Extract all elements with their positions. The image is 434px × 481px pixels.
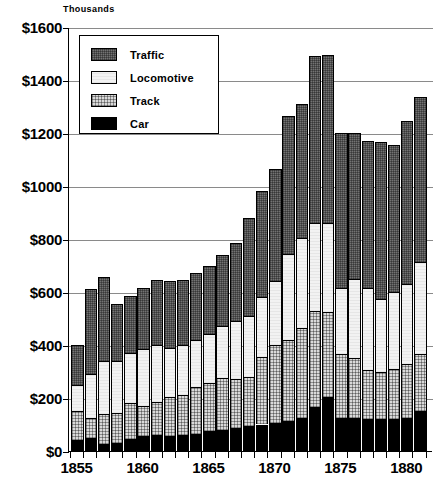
bar-segment-track[interactable] — [296, 328, 308, 418]
stacked-bar[interactable] — [309, 27, 321, 451]
bar-segment-car[interactable] — [375, 419, 387, 451]
bar-segment-car[interactable] — [111, 443, 123, 451]
bar-segment-locomotive[interactable] — [296, 238, 308, 328]
stacked-bar[interactable] — [322, 27, 334, 451]
bar-segment-car[interactable] — [216, 430, 228, 451]
bar-segment-traffic[interactable] — [388, 145, 400, 292]
bar-segment-locomotive[interactable] — [309, 223, 321, 310]
bar-segment-car[interactable] — [137, 436, 149, 451]
bar-segment-track[interactable] — [203, 383, 215, 431]
stacked-bar[interactable] — [335, 27, 347, 451]
bar-segment-car[interactable] — [348, 418, 360, 451]
bar-segment-car[interactable] — [85, 438, 97, 451]
bar-segment-traffic[interactable] — [85, 289, 97, 374]
stacked-bar[interactable] — [414, 27, 426, 451]
bar-segment-car[interactable] — [164, 436, 176, 451]
bar-segment-locomotive[interactable] — [230, 321, 242, 379]
stacked-bar[interactable] — [388, 27, 400, 451]
bar-segment-locomotive[interactable] — [269, 281, 281, 345]
bar-segment-traffic[interactable] — [164, 281, 176, 347]
bar-segment-traffic[interactable] — [216, 255, 228, 327]
bar-segment-car[interactable] — [203, 431, 215, 451]
stacked-bar[interactable] — [296, 27, 308, 451]
bar-segment-locomotive[interactable] — [85, 374, 97, 418]
bar-segment-track[interactable] — [335, 354, 347, 418]
bar-segment-track[interactable] — [256, 357, 268, 425]
bar-segment-track[interactable] — [98, 414, 110, 444]
bar-segment-locomotive[interactable] — [203, 334, 215, 383]
bar-segment-traffic[interactable] — [203, 266, 215, 335]
bar-segment-traffic[interactable] — [124, 296, 136, 353]
bar-segment-traffic[interactable] — [348, 133, 360, 279]
bar-segment-locomotive[interactable] — [111, 361, 123, 413]
bar-segment-car[interactable] — [335, 418, 347, 451]
bar-segment-traffic[interactable] — [98, 277, 110, 360]
bar-segment-traffic[interactable] — [401, 121, 413, 284]
stacked-bar[interactable] — [348, 27, 360, 451]
bar-segment-locomotive[interactable] — [348, 279, 360, 359]
bar-segment-car[interactable] — [269, 423, 281, 451]
bar-segment-track[interactable] — [348, 358, 360, 418]
stacked-bar[interactable] — [375, 27, 387, 451]
bar-segment-locomotive[interactable] — [388, 292, 400, 369]
bar-segment-traffic[interactable] — [375, 142, 387, 298]
bar-segment-traffic[interactable] — [177, 280, 189, 345]
bar-segment-locomotive[interactable] — [243, 316, 255, 377]
bar-segment-track[interactable] — [230, 379, 242, 428]
bar-segment-locomotive[interactable] — [151, 345, 163, 402]
bar-segment-car[interactable] — [230, 428, 242, 451]
bar-segment-traffic[interactable] — [335, 133, 347, 288]
bar-segment-car[interactable] — [401, 418, 413, 451]
bar-segment-car[interactable] — [282, 421, 294, 451]
bar-segment-locomotive[interactable] — [362, 288, 374, 370]
bar-segment-traffic[interactable] — [269, 169, 281, 282]
bar-segment-track[interactable] — [375, 372, 387, 420]
stacked-bar[interactable] — [362, 27, 374, 451]
bar-segment-car[interactable] — [98, 444, 110, 451]
bar-segment-car[interactable] — [296, 418, 308, 451]
bar-segment-track[interactable] — [216, 378, 228, 430]
bar-segment-car[interactable] — [309, 407, 321, 451]
bar-segment-track[interactable] — [164, 397, 176, 437]
stacked-bar[interactable] — [401, 27, 413, 451]
bar-segment-traffic[interactable] — [282, 116, 294, 254]
bar-segment-locomotive[interactable] — [124, 353, 136, 403]
bar-segment-track[interactable] — [190, 387, 202, 433]
bar-segment-traffic[interactable] — [190, 273, 202, 339]
bar-segment-track[interactable] — [362, 370, 374, 419]
bar-segment-car[interactable] — [388, 419, 400, 451]
bar-segment-car[interactable] — [190, 434, 202, 451]
bar-segment-car[interactable] — [243, 426, 255, 451]
bar-segment-locomotive[interactable] — [256, 297, 268, 357]
bar-segment-car[interactable] — [362, 419, 374, 451]
bar-segment-track[interactable] — [71, 411, 83, 440]
bar-segment-locomotive[interactable] — [177, 345, 189, 395]
stacked-bar[interactable] — [282, 27, 294, 451]
bar-segment-track[interactable] — [85, 418, 97, 438]
bar-segment-track[interactable] — [243, 377, 255, 426]
bar-segment-track[interactable] — [282, 340, 294, 421]
bar-segment-locomotive[interactable] — [164, 348, 176, 397]
bar-segment-locomotive[interactable] — [216, 326, 228, 378]
bar-segment-traffic[interactable] — [243, 218, 255, 316]
bar-segment-locomotive[interactable] — [98, 361, 110, 414]
bar-segment-track[interactable] — [137, 406, 149, 436]
stacked-bar[interactable] — [230, 27, 242, 451]
bar-segment-traffic[interactable] — [256, 191, 268, 297]
bar-segment-locomotive[interactable] — [190, 340, 202, 388]
bar-segment-track[interactable] — [388, 369, 400, 419]
bar-segment-locomotive[interactable] — [375, 299, 387, 372]
bar-segment-traffic[interactable] — [111, 304, 123, 361]
bar-segment-track[interactable] — [414, 354, 426, 411]
bar-segment-car[interactable] — [256, 425, 268, 452]
stacked-bar[interactable] — [256, 27, 268, 451]
bar-segment-track[interactable] — [401, 364, 413, 418]
bar-segment-car[interactable] — [71, 440, 83, 451]
stacked-bar[interactable] — [243, 27, 255, 451]
bar-segment-traffic[interactable] — [137, 288, 149, 349]
stacked-bar[interactable] — [269, 27, 281, 451]
bar-segment-traffic[interactable] — [230, 243, 242, 321]
bar-segment-traffic[interactable] — [71, 345, 83, 385]
bar-segment-locomotive[interactable] — [322, 223, 334, 312]
bar-segment-car[interactable] — [177, 435, 189, 451]
